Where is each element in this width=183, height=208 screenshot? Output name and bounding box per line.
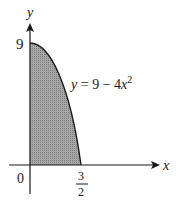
x-tick-denominator: 2: [78, 185, 84, 199]
y-axis-label: y: [25, 5, 34, 20]
curve-equation-label: y = 9 − 4x2: [69, 74, 132, 92]
x-tick-numerator: 3: [78, 169, 84, 183]
y-tick-9: 9: [16, 36, 24, 52]
x-axis-label: x: [162, 158, 170, 173]
shaded-region: [30, 43, 81, 165]
origin-label: 0: [17, 171, 24, 186]
graph-figure: y x 9 0 3 2 y = 9 − 4x2: [0, 0, 183, 208]
